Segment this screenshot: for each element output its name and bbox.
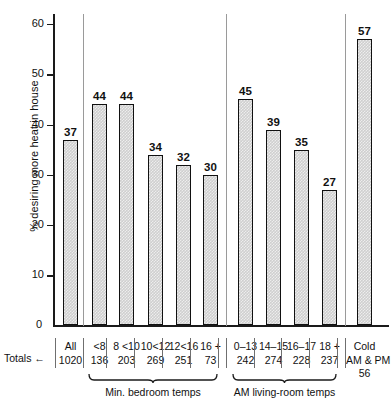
y-tick-60 <box>47 24 53 25</box>
y-tick-10 <box>47 275 53 276</box>
bar-value-label: 27 <box>313 176 346 188</box>
bar[interactable] <box>92 104 107 325</box>
bar-value-label: 44 <box>110 90 143 102</box>
bar[interactable] <box>148 155 163 326</box>
y-tick-20 <box>47 225 53 226</box>
brace-am-living-room-temps <box>232 373 337 383</box>
totals-row-label: Totals ← <box>4 352 48 364</box>
label-divider-8 <box>254 338 255 368</box>
y-tick-label-30: 30 <box>4 168 44 180</box>
y-tick-label-0: 0 <box>36 318 42 330</box>
label-divider-6 <box>218 338 219 368</box>
y-axis-title: % desiring more heat in house <box>28 26 40 286</box>
x-total-label: 56 <box>346 367 383 379</box>
bar[interactable] <box>357 39 372 325</box>
group-separator-1 <box>83 14 84 326</box>
label-divider-4 <box>162 338 163 368</box>
bar[interactable] <box>119 104 134 325</box>
bar[interactable] <box>63 140 78 326</box>
y-tick-label-20: 20 <box>4 218 44 230</box>
bar[interactable] <box>176 165 191 326</box>
group-separator-3 <box>345 14 346 326</box>
label-divider-5 <box>190 338 191 368</box>
bar-value-label: 35 <box>285 136 318 148</box>
y-tick-label-50: 50 <box>4 67 44 79</box>
bar[interactable] <box>266 130 281 326</box>
bar-value-label: 30 <box>194 161 227 173</box>
x-axis-line <box>53 325 389 327</box>
y-tick-label-60: 60 <box>4 17 44 29</box>
label-divider-3 <box>134 338 135 368</box>
bar[interactable] <box>238 99 253 325</box>
x-category-label: 18 + <box>311 340 348 352</box>
y-tick-50 <box>47 74 53 75</box>
chart-figure: % desiring more heat in house 1020304050… <box>0 0 392 402</box>
x-label-cell: ColdAM & PM56 <box>346 340 383 382</box>
bar-value-label: 37 <box>54 126 87 138</box>
y-tick-label-10: 10 <box>4 268 44 280</box>
x-category-label: Cold <box>346 340 383 352</box>
group-title-am-living-room-temps: AM living-room temps <box>202 386 367 398</box>
x-category-label-line2: AM & PM <box>346 354 383 366</box>
totals-text: Totals <box>4 352 31 364</box>
y-tick-30 <box>47 175 53 176</box>
brace-min-bedroom-temps <box>88 373 218 383</box>
bar-value-label: 57 <box>348 25 381 37</box>
bar-value-label: 45 <box>229 85 262 97</box>
label-divider-12 <box>345 338 346 368</box>
label-divider-0 <box>55 338 56 368</box>
bar-value-label: 39 <box>257 116 290 128</box>
label-divider-7 <box>226 338 227 368</box>
label-divider-1 <box>83 338 84 368</box>
label-divider-10 <box>309 338 310 368</box>
totals-arrow-icon: ← <box>31 352 47 364</box>
x-total-label: 73 <box>192 354 229 366</box>
label-divider-2 <box>106 338 107 368</box>
x-category-label: 16 + <box>192 340 229 352</box>
y-tick-label-40: 40 <box>4 118 44 130</box>
y-axis-line <box>53 14 55 326</box>
label-divider-9 <box>281 338 282 368</box>
bar[interactable] <box>294 150 309 326</box>
bar[interactable] <box>322 190 337 326</box>
label-divider-11 <box>337 338 338 368</box>
bar[interactable] <box>203 175 218 326</box>
x-total-label: 237 <box>311 354 348 366</box>
y-tick-40 <box>47 125 53 126</box>
